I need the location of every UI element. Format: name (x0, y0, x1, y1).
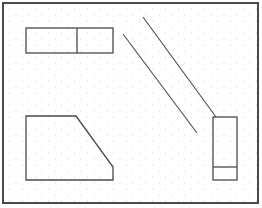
floor-plan-diagram (0, 0, 262, 208)
dot-grid (4, 4, 257, 202)
